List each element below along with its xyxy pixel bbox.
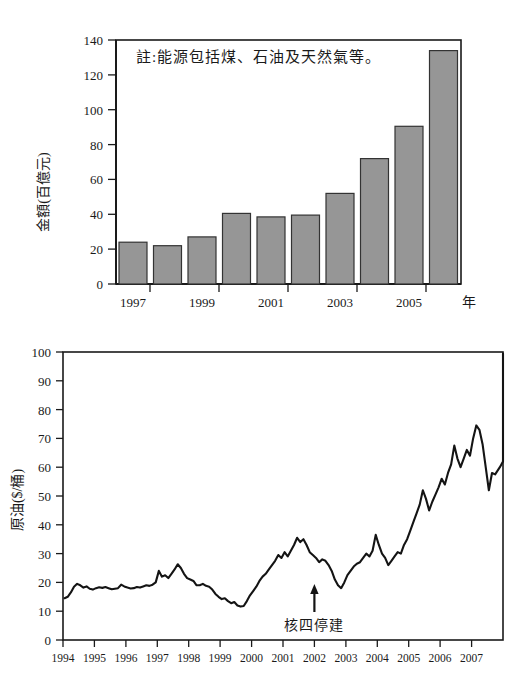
- line-y-tick-10: 10: [38, 604, 51, 619]
- line-y-tick-20: 20: [38, 575, 51, 590]
- bar-x-tick-2001: 2001: [258, 295, 284, 310]
- bar-chart-y-axis-title: 金額(百億元): [36, 152, 52, 232]
- bar-y-tick-60: 60: [90, 172, 103, 187]
- bar-x-tick-1997: 1997: [120, 295, 147, 310]
- chart-page: 金額(百億元) 140 120 100 80: [0, 0, 518, 698]
- energy-import-bar-chart: 金額(百億元) 140 120 100 80: [0, 0, 518, 340]
- line-x-tick-2007: 2007: [460, 652, 483, 664]
- nuclear-four-halt-annotation-label: 核四停建: [284, 617, 344, 633]
- bar-chart-bars: [119, 51, 458, 284]
- bar-y-tick-100: 100: [84, 103, 104, 118]
- line-x-tick-2005: 2005: [397, 652, 420, 664]
- bar-x-tick-2003: 2003: [327, 295, 353, 310]
- bar-2000: [223, 213, 251, 284]
- bar-y-tick-80: 80: [90, 138, 103, 153]
- line-x-tick-2001: 2001: [272, 652, 295, 664]
- line-x-tick-1995: 1995: [83, 652, 106, 664]
- crude-oil-price-line-chart: 原油($/桶) 100 90 80 70: [0, 340, 518, 698]
- nuclear-four-halt-annotation-arrow: [310, 584, 318, 612]
- line-x-tick-2004: 2004: [366, 652, 389, 664]
- bar-2006: [430, 51, 458, 284]
- bar-chart-x-axis-title: 年: [462, 295, 476, 310]
- line-x-tick-1999: 1999: [209, 652, 232, 664]
- line-y-tick-30: 30: [38, 547, 51, 562]
- line-y-tick-90: 90: [38, 374, 51, 389]
- bar-y-tick-140: 140: [84, 33, 104, 48]
- crude-oil-price-series-line: [65, 353, 503, 606]
- line-y-tick-60: 60: [38, 460, 51, 475]
- bar-chart-note: 註:能源包括煤、石油及天然氣等。: [136, 48, 381, 65]
- line-chart-y-tick-labels: 100 90 80 70 60 50 40 30 20 10 0: [32, 345, 52, 648]
- line-y-tick-100: 100: [32, 345, 52, 360]
- bar-chart-x-tick-labels: 1997 1999 2001 2003 2005: [120, 295, 422, 310]
- bar-y-tick-0: 0: [97, 277, 104, 292]
- line-chart-x-ticks: [63, 640, 472, 647]
- line-y-tick-40: 40: [38, 518, 51, 533]
- line-chart-svg: 原油($/桶) 100 90 80 70: [0, 340, 518, 698]
- bar-chart-svg: 金額(百億元) 140 120 100 80: [0, 0, 518, 340]
- line-x-tick-2000: 2000: [240, 652, 263, 664]
- line-x-tick-1994: 1994: [52, 652, 75, 664]
- line-x-tick-1997: 1997: [146, 652, 169, 664]
- bar-1997: [119, 242, 147, 284]
- bar-chart-y-tick-labels: 140 120 100 80 60 40 20 0: [84, 33, 104, 292]
- bar-x-tick-1999: 1999: [189, 295, 215, 310]
- line-x-tick-2006: 2006: [429, 652, 452, 664]
- bar-2003: [326, 193, 354, 284]
- bar-x-tick-2005: 2005: [396, 295, 422, 310]
- bar-chart-x-ticks: [150, 284, 426, 292]
- line-y-tick-50: 50: [38, 489, 51, 504]
- line-chart-y-axis-title: 原油($/桶): [10, 469, 26, 532]
- line-chart-y-ticks: [56, 352, 63, 640]
- line-x-tick-1996: 1996: [114, 652, 137, 664]
- line-chart-x-tick-labels: 1994 1995 1996 1997 1998 1999 2000 2001 …: [52, 652, 484, 664]
- line-x-tick-2003: 2003: [334, 652, 357, 664]
- line-x-tick-1998: 1998: [177, 652, 200, 664]
- bar-2002: [292, 215, 320, 284]
- bar-y-tick-40: 40: [90, 207, 103, 222]
- line-y-tick-0: 0: [45, 633, 52, 648]
- bar-1998: [154, 246, 182, 284]
- bar-2004: [361, 159, 389, 284]
- bar-1999: [188, 237, 216, 284]
- line-chart-plot-frame: [63, 352, 503, 640]
- bar-2005: [395, 126, 423, 284]
- bar-chart-y-ticks: [108, 40, 116, 284]
- line-y-tick-80: 80: [38, 403, 51, 418]
- line-y-tick-70: 70: [38, 431, 51, 446]
- bar-y-tick-120: 120: [84, 68, 104, 83]
- bar-y-tick-20: 20: [90, 242, 103, 257]
- bar-2001: [257, 217, 285, 284]
- line-x-tick-2002: 2002: [303, 652, 326, 664]
